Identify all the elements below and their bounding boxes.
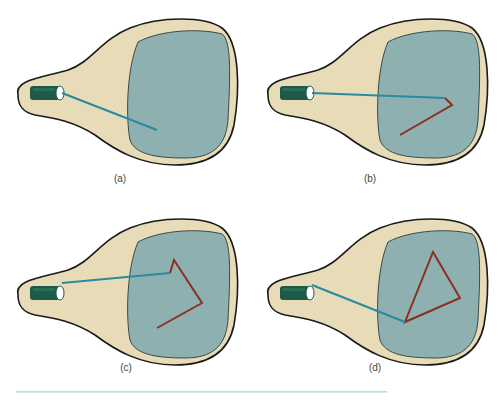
panel-b bbox=[268, 19, 488, 165]
panel-a bbox=[18, 19, 238, 165]
caption-a: (a) bbox=[100, 173, 140, 184]
caption-c: (c) bbox=[106, 362, 146, 373]
divider-rule bbox=[16, 391, 387, 393]
caption-d: (d) bbox=[355, 362, 395, 373]
panel-c bbox=[18, 219, 238, 365]
caption-b: (b) bbox=[350, 173, 390, 184]
panel-d bbox=[268, 219, 488, 365]
crt-diagram bbox=[0, 0, 501, 400]
